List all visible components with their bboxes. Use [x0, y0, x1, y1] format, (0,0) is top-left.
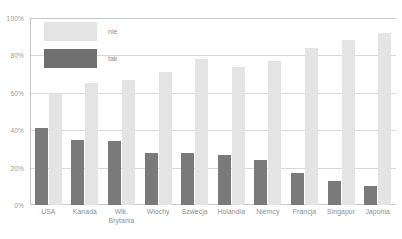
bar-group [286, 18, 323, 205]
x-tick-label: Francja [286, 207, 323, 225]
legend-item-nie: nie [44, 22, 117, 41]
bar-tak [218, 155, 231, 205]
bar-nie [49, 93, 62, 205]
y-tick-label: 100% [7, 15, 24, 22]
bar-group [359, 18, 396, 205]
x-axis-labels: USAKanadaWlk.BrytaniaWłochySzwecjaHoland… [30, 207, 396, 225]
bar-group [176, 18, 213, 205]
x-tick-label: Szwecja [176, 207, 213, 225]
legend-swatch-tak [44, 49, 97, 68]
bar-tak [328, 181, 341, 205]
y-tick-label: 40% [10, 127, 24, 134]
x-tick-label: Niemcy [250, 207, 287, 225]
bar-group [250, 18, 287, 205]
x-tick-label: Japonia [359, 207, 396, 225]
bar-tak [108, 141, 121, 205]
bar-nie [85, 83, 98, 205]
bar-tak [364, 186, 377, 205]
bar-tak [71, 140, 84, 205]
x-tick-label: USA [30, 207, 67, 225]
bar-nie [268, 61, 281, 205]
y-tick-label: 0% [14, 202, 24, 209]
y-axis-labels: 0%20%40%60%80%100% [0, 18, 28, 205]
x-tick-label: Singapur [323, 207, 360, 225]
chart-legend: nietak [44, 22, 117, 68]
legend-item-tak: tak [44, 49, 117, 68]
bar-nie [378, 33, 391, 205]
y-tick-label: 80% [10, 52, 24, 59]
y-tick-label: 20% [10, 164, 24, 171]
bar-tak [254, 160, 267, 205]
y-tick-label: 60% [10, 89, 24, 96]
bar-tak [181, 153, 194, 205]
x-tick-label: Włochy [140, 207, 177, 225]
bar-group [140, 18, 177, 205]
bar-group [213, 18, 250, 205]
x-tick-label: Holandia [213, 207, 250, 225]
legend-label: tak [108, 55, 117, 62]
bar-nie [195, 59, 208, 205]
bar-tak [145, 153, 158, 205]
bar-nie [305, 48, 318, 205]
bar-group [323, 18, 360, 205]
bar-nie [232, 67, 245, 205]
x-tick-label: Kanada [67, 207, 104, 225]
legend-label: nie [108, 28, 117, 35]
legend-swatch-nie [44, 22, 97, 41]
bar-nie [122, 80, 135, 205]
x-tick-label: Wlk.Brytania [103, 207, 140, 225]
bar-nie [342, 40, 355, 205]
bar-tak [291, 173, 304, 205]
bar-tak [35, 128, 48, 205]
bar-nie [159, 72, 172, 205]
bar-chart: 0%20%40%60%80%100% USAKanadaWlk.Brytania… [0, 0, 402, 239]
